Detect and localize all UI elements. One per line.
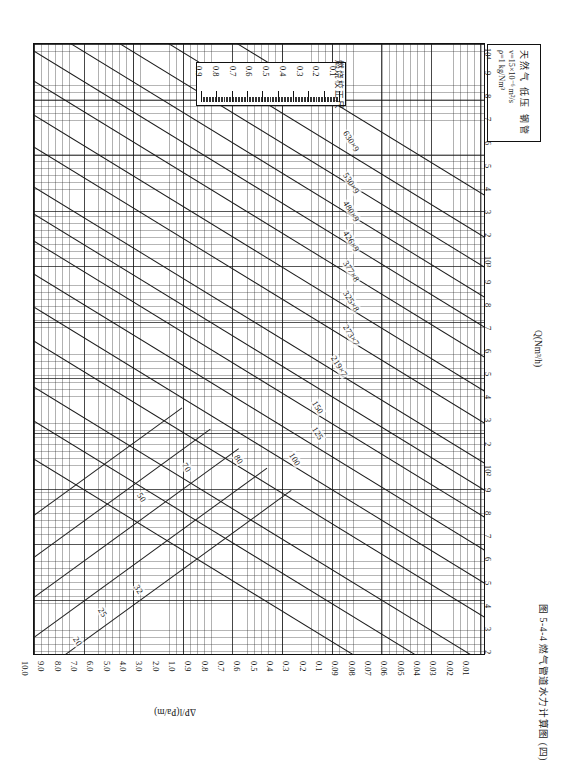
- pressure-axis-tick: 8.0: [53, 661, 62, 671]
- pressure-axis-tick: 0.02: [445, 661, 454, 676]
- q-axis-tick: 6: [483, 349, 492, 353]
- pressure-axis-tick: 0.05: [396, 661, 405, 676]
- legend-box: 天然气 低压 钢管 v=15×10⁻⁶ m²/s ρ=1 kg/Nm³: [487, 44, 541, 142]
- pressure-axis-tick: 0.07: [363, 661, 372, 676]
- pressure-axis-tick: 9.0: [36, 661, 45, 671]
- q-axis-tick: 8: [483, 511, 492, 515]
- ruler-value: 0.7: [228, 66, 237, 76]
- q-axis-tick: 5: [483, 164, 492, 168]
- legend-viscosity: v=15×10⁻⁶ m²/s: [507, 50, 517, 141]
- q-axis-tick: 3: [483, 627, 492, 631]
- ruler-value: 0.5: [261, 66, 270, 76]
- q-axis-tick: 2: [483, 442, 492, 446]
- q-axis-tick: 3: [483, 210, 492, 214]
- q-axis-tick: 5: [483, 372, 492, 376]
- ruler-label: 燃烧校正尺: [334, 60, 346, 110]
- q-axis-tick: 7: [483, 117, 492, 121]
- pressure-axis-tick: 0.1: [314, 661, 323, 671]
- pressure-axis-tick: 6.0: [85, 661, 94, 671]
- q-axis-tick: 4: [483, 395, 492, 399]
- figure-caption: 图 5-4-4 燃气管道水力计算图 (四): [537, 604, 551, 761]
- q-axis-tick: 2: [483, 650, 492, 654]
- legend-density: ρ=1 kg/Nm³: [497, 50, 506, 141]
- pressure-axis-tick: 0.7: [216, 661, 225, 671]
- pressure-axis-tick: 0.9: [183, 661, 192, 671]
- ruler-value: 0.2: [311, 66, 320, 76]
- q-axis-tick: 5: [483, 581, 492, 585]
- pressure-axis-tick: 10.0: [20, 661, 29, 676]
- pressure-axis-tick: 2.0: [151, 661, 160, 671]
- q-axis-tick: 6: [483, 141, 492, 145]
- q-axis-tick: 4: [483, 604, 492, 608]
- ruler-value: 0.4: [278, 66, 287, 76]
- pressure-axis-tick: 0.5: [249, 661, 258, 671]
- pressure-axis-tick: 4.0: [118, 661, 127, 671]
- q-axis-tick: 9: [483, 71, 492, 75]
- ruler-value: 0.6: [244, 66, 253, 76]
- q-axis-tick: 10⁴: [483, 48, 492, 59]
- pressure-axis-tick: 0.2: [298, 661, 307, 671]
- pressure-axis-title: ΔP/l(Pa/m): [154, 707, 196, 717]
- pressure-axis-tick: 1.0: [167, 661, 176, 671]
- q-axis-tick: 9: [483, 280, 492, 284]
- pressure-axis-tick: 5.0: [102, 661, 111, 671]
- combustion-correction-ruler: 0.90.80.70.60.50.40.30.20.1: [196, 62, 346, 106]
- q-axis-tick: 8: [483, 303, 492, 307]
- q-axis-tick: 7: [483, 326, 492, 330]
- pressure-axis-tick: 7.0: [69, 661, 78, 671]
- pressure-axis-tick: 0.08: [347, 661, 356, 676]
- q-axis-tick: 10³: [483, 256, 492, 267]
- q-axis-tick: 9: [483, 488, 492, 492]
- ruler-value: 0.9: [194, 66, 203, 76]
- chart-plot-area: [33, 43, 485, 655]
- pressure-axis-tick: 0.01: [461, 661, 470, 676]
- pressure-axis-tick: 0.06: [379, 661, 388, 676]
- pressure-axis-tick: 0.09: [330, 661, 339, 676]
- q-axis-tick: 10²: [483, 465, 492, 476]
- q-axis-tick: 6: [483, 557, 492, 561]
- pressure-axis-tick: 0.3: [281, 661, 290, 671]
- pressure-axis-tick: 0.6: [232, 661, 241, 671]
- pressure-axis-tick: 0.04: [412, 661, 421, 676]
- q-axis-title: Q(Nm³/h): [533, 330, 543, 367]
- legend-title: 天然气 低压 钢管: [518, 50, 531, 141]
- pressure-axis-tick: 3.0: [134, 661, 143, 671]
- ruler-value: 0.8: [211, 66, 220, 76]
- hydraulic-nomogram-figure: 630×9530×9480×9426×9377×8325×8273×7219×7…: [0, 0, 571, 770]
- pressure-axis-tick: 0.4: [265, 661, 274, 671]
- q-axis-tick: 8: [483, 94, 492, 98]
- q-axis-tick: 4: [483, 187, 492, 191]
- q-axis-tick: 7: [483, 534, 492, 538]
- pressure-axis-tick: 0.8: [200, 661, 209, 671]
- ruler-value: 0.3: [295, 66, 304, 76]
- pressure-axis-tick: 0.03: [428, 661, 437, 676]
- q-axis-tick: 2: [483, 233, 492, 237]
- q-axis-tick: 3: [483, 418, 492, 422]
